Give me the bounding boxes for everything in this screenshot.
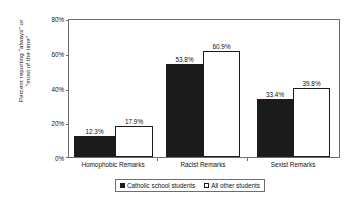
legend-label-all-other-students: All other students (211, 182, 260, 189)
bars-layer: 12.3% 17.9% 53.8% 60.9% 33.4% 39.8% (69, 20, 339, 157)
legend-item-catholic-school-students[interactable]: Catholic school students (120, 182, 195, 189)
bar-racist-all-other[interactable]: 60.9% (203, 51, 240, 157)
bar-sexist-catholic[interactable]: 33.4% (257, 99, 293, 157)
y-axis-tick-labels: 0% 20% 40% 60% 80% (28, 0, 64, 211)
plot-area: 12.3% 17.9% 53.8% 60.9% 33.4% 39.8% (68, 19, 340, 158)
legend-item-all-other-students[interactable]: All other students (204, 182, 260, 189)
legend-swatch-dark-icon (120, 183, 125, 188)
bar-value-homophobic-catholic: 12.3% (85, 128, 103, 135)
bar-sexist-all-other[interactable]: 39.8% (293, 88, 330, 157)
bar-value-sexist-catholic: 33.4% (266, 91, 284, 98)
y-tick-mark-0 (66, 157, 69, 158)
y-tick-label-20: 20% (30, 120, 64, 127)
y-tick-label-80: 80% (30, 16, 64, 23)
bar-value-homophobic-all-other: 17.9% (125, 118, 143, 125)
chart-legend: Catholic school students All other stude… (115, 179, 265, 192)
y-tick-label-40: 40% (30, 85, 64, 92)
bar-racist-catholic[interactable]: 53.8% (166, 64, 203, 158)
x-category-label-racist: Racist Remarks (158, 161, 248, 168)
bar-homophobic-catholic[interactable]: 12.3% (74, 136, 115, 157)
bar-value-sexist-all-other: 39.8% (302, 80, 320, 87)
bar-value-racist-catholic: 53.8% (175, 56, 193, 63)
legend-swatch-light-icon (204, 183, 209, 188)
bar-homophobic-all-other[interactable]: 17.9% (115, 126, 153, 157)
y-tick-label-60: 60% (30, 50, 64, 57)
x-category-label-homophobic: Homophobic Remarks (68, 161, 158, 168)
bar-chart: Percent reporting "always" or "most of t… (0, 0, 360, 211)
legend-label-catholic-school-students: Catholic school students (127, 182, 195, 189)
x-category-label-sexist: Sexist Remarks (248, 161, 338, 168)
bar-value-racist-all-other: 60.9% (212, 43, 230, 50)
y-tick-label-0: 0% (30, 155, 64, 162)
y-axis-title-line-1: Percent reporting "always" or (17, 20, 24, 103)
